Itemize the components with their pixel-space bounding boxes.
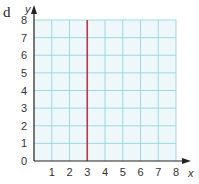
coordinate-grid-chart: 12345678012345678xy: [0, 0, 199, 184]
y-tick-label: 2: [21, 120, 27, 132]
x-tick-label: 4: [102, 166, 108, 178]
x-tick-label: 7: [155, 166, 161, 178]
y-tick-label: 0: [21, 155, 27, 167]
y-axis-arrow-icon: [31, 5, 37, 14]
x-tick-label: 6: [137, 166, 143, 178]
y-axis-label: y: [24, 3, 32, 15]
x-tick-label: 2: [66, 166, 72, 178]
x-tick-label: 5: [120, 166, 126, 178]
x-axis-label: x: [187, 167, 194, 179]
y-tick-label: 3: [21, 102, 27, 114]
x-tick-label: 3: [84, 166, 90, 178]
x-axis-arrow-icon: [182, 158, 191, 164]
y-tick-label: 1: [21, 137, 27, 149]
y-tick-label: 6: [21, 49, 27, 61]
y-tick-label: 4: [21, 85, 27, 97]
y-tick-label: 7: [21, 32, 27, 44]
y-tick-label: 8: [21, 14, 27, 26]
x-tick-label: 1: [49, 166, 55, 178]
y-tick-label: 5: [21, 67, 27, 79]
x-tick-label: 8: [173, 166, 179, 178]
